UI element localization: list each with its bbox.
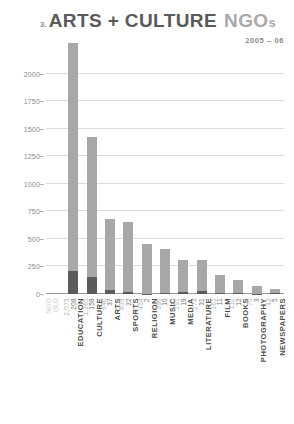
title-tail: NGOs: [224, 10, 276, 32]
bar-film: [215, 275, 225, 294]
bar-segment-ngo: [68, 43, 78, 271]
bar-segment-old: [178, 292, 188, 294]
x-label-column: 64637ARTS: [101, 298, 119, 420]
title-index: 3.: [40, 20, 47, 29]
y-axis-tickmark: [40, 184, 44, 185]
x-label-column: 1,265158CULTURE: [83, 298, 101, 420]
bar-segment-old: [160, 293, 170, 294]
bar-education: [68, 43, 78, 294]
chart-page: 3. ARTS + CULTURE NGOs 2005 – 06 0250500…: [0, 0, 294, 424]
x-label-column: 4542RELIGION: [138, 298, 156, 420]
bar-segment-old: [68, 271, 78, 294]
chart-subtitle: 2005 – 06: [245, 36, 284, 45]
y-axis-tick-label: 1000: [24, 180, 40, 187]
bar-sports: [123, 222, 133, 294]
x-label-column: 29119MEDIA: [174, 298, 192, 420]
x-label-column: 2,073208EDUCATION: [64, 298, 82, 420]
y-axis-tickmark: [40, 294, 44, 295]
legend-label-old: OLD: [53, 298, 60, 312]
y-axis-tick-label: 500: [28, 235, 40, 242]
bar-segment-ngo: [252, 286, 262, 294]
x-label-column: 11212BOOKS: [229, 298, 247, 420]
bar-segment-ngo: [197, 260, 207, 290]
category-label: NEWSPAPERS: [279, 298, 287, 356]
y-axis-tickmark: [40, 266, 44, 267]
bar-segment-ngo: [160, 249, 170, 293]
y-axis-tickmark: [40, 211, 44, 212]
y-axis-tick-label: 1250: [24, 153, 40, 160]
bar-segment-old: [123, 292, 133, 294]
bar-segment-old: [197, 291, 207, 294]
y-axis-tick-label: 2000: [24, 70, 40, 77]
bar-segment-ngo: [105, 219, 115, 290]
y-axis-tickmark: [40, 239, 44, 240]
bar-newspapers: [270, 289, 280, 294]
bar-segment-old: [270, 293, 280, 294]
y-axis-tick-label: 1500: [24, 125, 40, 132]
title-tail-text: NGO: [224, 10, 268, 31]
y-axis-tick-label: 750: [28, 208, 40, 215]
x-label-column: 27431LITERATURE: [192, 298, 210, 420]
legend-column: NGOOLD: [46, 298, 64, 420]
bar-media: [178, 260, 188, 294]
x-label-column: 425NEWSPAPERS: [266, 298, 284, 420]
page-title: 3. ARTS + CULTURE NGOs: [40, 10, 276, 32]
bar-arts: [105, 219, 115, 294]
y-axis-tick-label: 250: [28, 263, 40, 270]
plot-area: [46, 46, 284, 294]
x-label-column: 63322SPORTS: [119, 298, 137, 420]
bar-segment-ngo: [87, 137, 97, 276]
y-axis-tickmark: [40, 129, 44, 130]
x-axis-labels: NGOOLD2,073208EDUCATION1,265158CULTURE64…: [46, 298, 284, 420]
title-main: ARTS + CULTURE: [49, 10, 217, 32]
bar-group: [46, 46, 284, 294]
bar-segment-ngo: [123, 222, 133, 292]
bar-segment-old: [105, 290, 115, 294]
title-tail-suffix: s: [269, 15, 277, 30]
bar-music: [160, 249, 170, 294]
bar-segment-old: [215, 293, 225, 294]
bar-religion: [142, 244, 152, 294]
bar-books: [233, 280, 243, 294]
x-label-column: 703PHOTOGRAPHY: [247, 298, 265, 420]
y-axis-tickmark: [40, 101, 44, 102]
bar-photography: [252, 286, 262, 294]
x-label-column: 39610MUSIC: [156, 298, 174, 420]
bar-segment-old: [233, 293, 243, 294]
y-axis-labels: 025050075010001250150017502000: [0, 46, 44, 294]
bar-segment-ngo: [142, 244, 152, 294]
bar-segment-ngo: [215, 275, 225, 293]
bar-literature: [197, 260, 207, 294]
x-label-column: 16111FILM: [211, 298, 229, 420]
bar-segment-old: [87, 277, 97, 294]
bar-segment-ngo: [178, 260, 188, 292]
bar-culture: [87, 137, 97, 294]
y-axis-tickmark: [40, 74, 44, 75]
y-axis-tick-label: 1750: [24, 98, 40, 105]
bar-segment-ngo: [233, 280, 243, 292]
y-axis-tickmark: [40, 156, 44, 157]
